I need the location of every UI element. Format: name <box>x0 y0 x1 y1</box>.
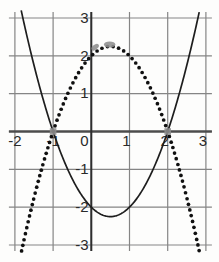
curve-dot <box>160 113 164 117</box>
curve-dot <box>130 57 134 61</box>
x-tick-label: 3 <box>199 132 207 149</box>
curve-dot <box>192 225 196 229</box>
curve-dot <box>25 226 29 230</box>
y-tick-label: -1 <box>75 160 88 177</box>
curve-dot <box>28 214 32 218</box>
curve-dot <box>61 102 65 106</box>
curve-dot <box>38 174 42 178</box>
curve-dot <box>55 118 59 122</box>
highlight-marker <box>50 128 57 135</box>
curve-dot <box>182 185 186 189</box>
curve-dot <box>179 174 183 178</box>
curve-dot <box>24 232 28 236</box>
curve-dot <box>134 61 138 65</box>
curve-dot <box>185 197 189 201</box>
curve-dot <box>122 49 126 53</box>
parabola-chart-svg: -2-10123321-1-2-3 <box>0 0 219 262</box>
curve-dot <box>77 71 81 75</box>
x-tick-label: 1 <box>122 132 130 149</box>
curve-dot <box>59 107 63 111</box>
highlight-marker <box>164 128 171 135</box>
curve-dot <box>181 179 185 183</box>
curve-dot <box>39 168 43 172</box>
curve-dot <box>29 208 33 212</box>
curve-dot <box>191 220 195 224</box>
curve-dot <box>43 157 47 161</box>
solid-parabola <box>21 10 199 216</box>
curve-dot <box>196 243 200 247</box>
curve-dot <box>26 220 30 224</box>
curve-dot <box>66 91 70 95</box>
curve-dot <box>32 197 36 201</box>
curve-dot <box>143 76 147 80</box>
curve-dot <box>71 81 75 85</box>
curve-dot <box>193 231 197 235</box>
curve-dot <box>30 203 34 207</box>
curve-dot <box>188 208 192 212</box>
curve-dot <box>149 86 153 90</box>
curve-dot <box>195 238 199 242</box>
curve-dot <box>197 249 201 253</box>
curve-dot <box>57 113 61 117</box>
curve-dot <box>140 71 144 75</box>
y-tick-label: -3 <box>75 236 88 253</box>
curve-dot <box>153 96 157 100</box>
curve-dot <box>68 86 72 90</box>
quadratic-graph-figure: -2-10123321-1-2-3 <box>0 0 219 262</box>
curve-dot <box>167 135 171 139</box>
curve-dot <box>174 157 178 161</box>
curve-dot <box>64 97 68 101</box>
curve-dot <box>117 46 121 50</box>
curve-dot <box>169 140 173 144</box>
curve-dot <box>80 66 84 70</box>
curve-dot <box>173 151 177 155</box>
curve-dot <box>87 57 91 61</box>
curve-dot <box>187 202 191 206</box>
curve-dot <box>156 102 160 106</box>
curve-dot <box>21 243 25 247</box>
curve-dot <box>171 146 175 150</box>
curve-dot <box>189 214 193 218</box>
curve-dot <box>33 191 37 195</box>
curve-dot <box>83 61 87 65</box>
curve-dot <box>50 135 54 139</box>
x-tick-label: 0 <box>80 132 88 149</box>
curve-dot <box>22 238 26 242</box>
curve-dot <box>151 91 155 95</box>
curve-dot <box>164 124 168 128</box>
curve-dot <box>20 249 24 253</box>
curve-dot <box>44 151 48 155</box>
y-tick-label: 3 <box>80 9 88 26</box>
curve-dot <box>35 185 39 189</box>
curve-dot <box>91 53 95 57</box>
curve-dot <box>48 141 52 145</box>
curve-dot <box>146 81 150 85</box>
curve-dot <box>162 118 166 122</box>
curve-dot <box>184 191 188 195</box>
curve-dot <box>158 107 162 111</box>
curve-dot <box>36 180 40 184</box>
curve-dot <box>178 168 182 172</box>
dotted-parabola <box>20 45 201 253</box>
curve-dot <box>46 146 50 150</box>
curve-dot <box>100 46 104 50</box>
curve-dot <box>74 76 78 80</box>
curve-dot <box>137 66 141 70</box>
highlight-marker <box>104 41 115 47</box>
y-tick-label: 1 <box>80 84 88 101</box>
curve-dot <box>176 163 180 167</box>
curve-dot <box>126 53 130 57</box>
x-tick-label: -2 <box>8 132 21 149</box>
y-tick-label: 2 <box>80 47 88 64</box>
curve-dot <box>53 124 57 128</box>
curve-dot <box>41 163 45 167</box>
